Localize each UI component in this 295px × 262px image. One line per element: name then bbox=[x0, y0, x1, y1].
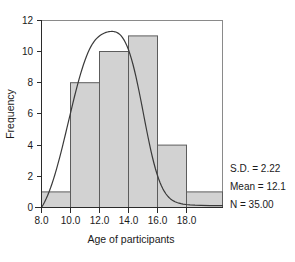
x-tick-label-14: 14.0 bbox=[119, 215, 139, 226]
bar-16-18 bbox=[158, 145, 187, 207]
y-tick-label-10: 10 bbox=[22, 46, 34, 57]
y-tick-label-12: 12 bbox=[22, 15, 34, 26]
y-tick-label-8: 8 bbox=[27, 77, 33, 88]
y-tick-label-6: 6 bbox=[27, 108, 33, 119]
annotation-sd: S.D. = 2.22 bbox=[230, 163, 281, 174]
y-axis-title: Frequency bbox=[4, 88, 16, 138]
annotation-mean: Mean = 12.1 bbox=[230, 181, 286, 192]
bar-14-16 bbox=[129, 36, 158, 208]
x-tick-label-8: 8.0 bbox=[35, 215, 49, 226]
x-tick-label-18: 18.0 bbox=[177, 215, 197, 226]
bar-12-14 bbox=[100, 52, 129, 208]
y-tick-label-2: 2 bbox=[27, 171, 33, 182]
y-tick-label-4: 4 bbox=[27, 140, 33, 151]
y-tick-label-0: 0 bbox=[27, 202, 33, 213]
annotation-n: N = 35.00 bbox=[230, 199, 274, 210]
x-tick-label-12: 12.0 bbox=[90, 215, 110, 226]
x-axis-title: Age of participants bbox=[88, 233, 175, 245]
x-tick-label-16: 16.0 bbox=[148, 215, 168, 226]
histogram-figure: 0 2 4 6 8 10 12 8.0 10.0 12.0 14.0 16.0 … bbox=[0, 0, 295, 262]
bar-10-12 bbox=[71, 83, 100, 208]
x-tick-label-10: 10.0 bbox=[61, 215, 81, 226]
